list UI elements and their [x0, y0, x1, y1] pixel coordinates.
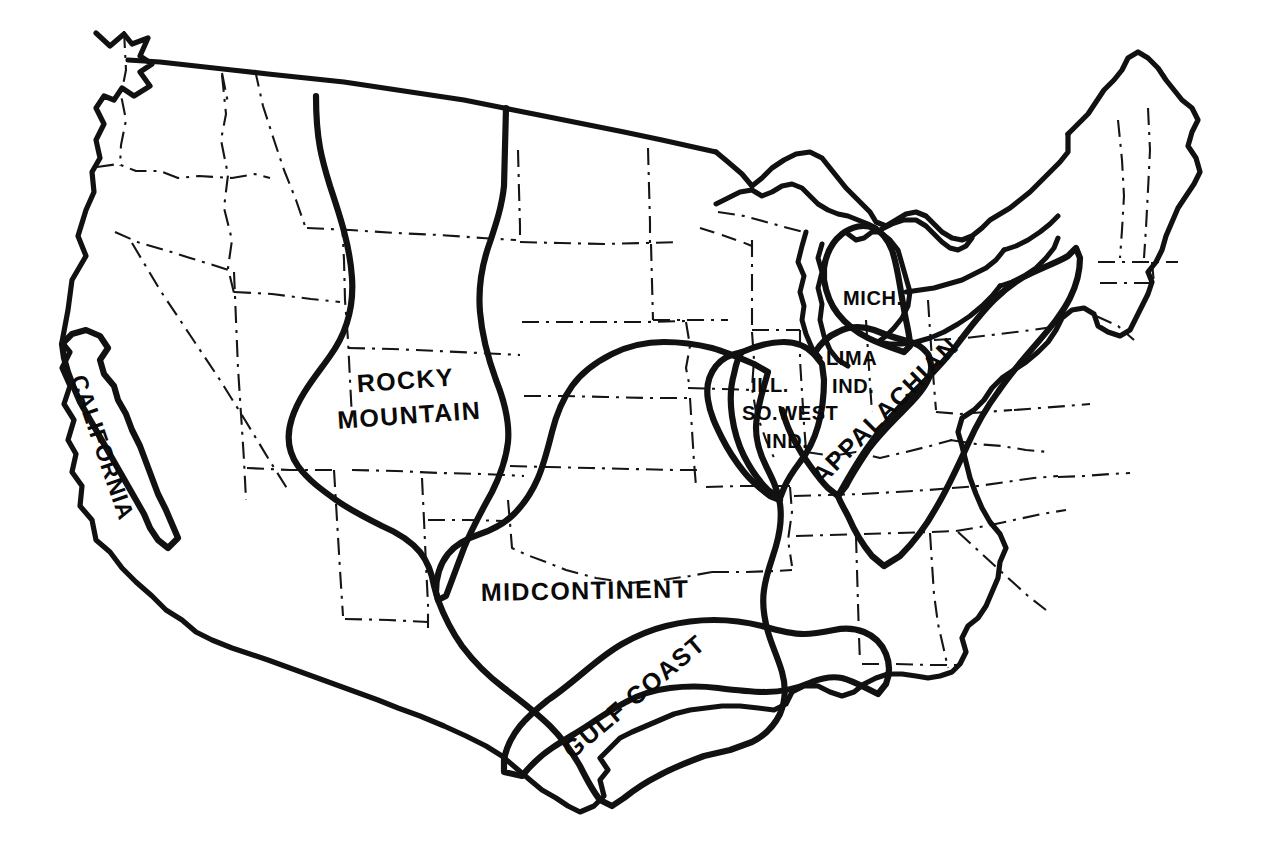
label-california: CALIFORNIA	[66, 371, 140, 523]
label-illinois-line3: IND.	[766, 430, 808, 452]
state-border	[788, 487, 792, 566]
lake-erie-north	[906, 250, 1004, 292]
state-border	[520, 242, 680, 244]
state-border	[1118, 120, 1124, 258]
label-lima-line2: IND.	[832, 375, 874, 397]
label-illinois-line2: SO.WEST	[742, 402, 838, 424]
northern-border	[128, 60, 716, 152]
state-border	[688, 388, 752, 390]
state-border	[97, 164, 270, 178]
label-midcontinent: MIDCONTINENT	[481, 574, 690, 606]
province-outline-rocky-mountain	[289, 96, 509, 600]
state-border	[132, 243, 288, 490]
state-border	[796, 531, 956, 536]
state-border	[348, 348, 520, 355]
state-border	[712, 570, 792, 572]
state-border	[522, 321, 686, 322]
state-border	[700, 228, 752, 246]
state-border	[1058, 473, 1130, 477]
map-canvas: CALIFORNIA ROCKY MOUNTAIN MIDCONTINENT G…	[0, 0, 1264, 842]
label-michigan: MICH.	[843, 287, 903, 309]
state-border	[690, 398, 696, 486]
label-illinois-line1: ILL.	[751, 374, 789, 396]
state-border	[345, 619, 428, 622]
state-border	[930, 533, 948, 668]
state-border	[518, 150, 520, 242]
label-lima-line1: LIMA	[826, 347, 877, 369]
state-border	[428, 520, 505, 521]
state-border	[651, 244, 653, 320]
state-border	[856, 536, 860, 662]
state-border	[221, 75, 234, 293]
state-border	[794, 488, 952, 496]
state-border	[1144, 108, 1150, 258]
state-borders-layer	[97, 31, 1178, 668]
province-boundaries-layer	[62, 96, 1080, 806]
state-border	[686, 322, 690, 388]
state-border	[334, 470, 343, 616]
state-border	[956, 510, 1066, 531]
label-gulf-coast: GULF COAST	[557, 629, 710, 764]
state-border	[115, 232, 232, 271]
state-border	[648, 148, 650, 243]
lake-ontario-north	[1004, 216, 1058, 250]
michigan-mitten-tip	[848, 232, 880, 240]
state-border	[524, 396, 690, 398]
state-border	[862, 664, 960, 665]
label-rocky-mountain-line1: ROCKY	[356, 363, 455, 398]
state-border	[120, 31, 126, 166]
state-border	[718, 212, 804, 232]
lake-michigan	[798, 232, 820, 358]
state-border	[307, 228, 516, 240]
label-rocky-mountain-line2: MOUNTAIN	[336, 396, 482, 434]
state-border	[255, 70, 305, 226]
state-border	[234, 272, 246, 500]
state-border	[234, 292, 340, 302]
state-border	[247, 468, 332, 470]
state-border	[508, 500, 630, 583]
petroleum-provinces-map: CALIFORNIA ROCKY MOUNTAIN MIDCONTINENT G…	[0, 0, 1264, 842]
state-border	[1014, 404, 1090, 410]
